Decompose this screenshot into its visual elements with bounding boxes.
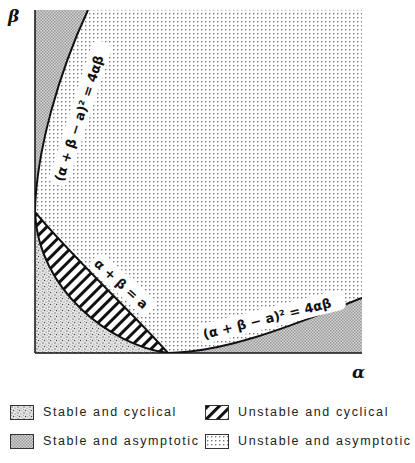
- dots-swatch-icon: [205, 434, 229, 449]
- legend: Stable and cyclical Unstable and cyclica…: [0, 400, 415, 463]
- x-axis-label: α: [352, 362, 365, 382]
- checker-swatch-icon: [10, 434, 34, 449]
- hatch-swatch-icon: [205, 405, 229, 420]
- legend-item-stable-asymptotic: Stable and asymptotic: [10, 432, 200, 450]
- legend-item-stable-cyclical: Stable and cyclical: [10, 403, 177, 421]
- legend-item-unstable-cyclical: Unstable and cyclical: [205, 403, 389, 421]
- y-axis-label: β: [8, 6, 19, 26]
- stipple-swatch-icon: [10, 405, 34, 420]
- stability-diagram: (α + β − a)² = 4αβ α + β = a (α + β − a)…: [0, 0, 415, 400]
- legend-item-unstable-asymptotic: Unstable and asymptotic: [205, 432, 412, 450]
